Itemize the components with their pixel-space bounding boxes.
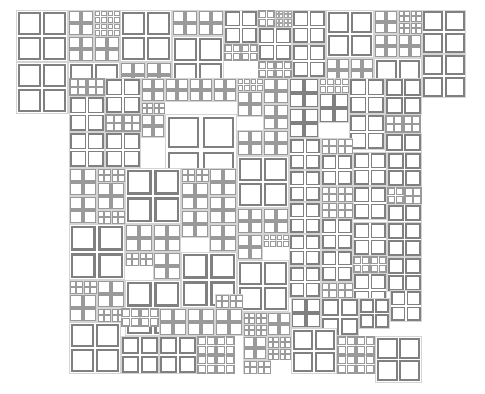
cross-cell xyxy=(267,336,278,347)
quadrant-bottom-left xyxy=(71,116,85,130)
cross-cell xyxy=(125,168,180,223)
cross-tiling-svg xyxy=(0,0,485,394)
quadrant-top-left xyxy=(291,268,304,281)
cross-cell xyxy=(385,78,421,114)
quadrant-top-right xyxy=(406,154,420,168)
cross-cell xyxy=(258,10,274,26)
quadrant-top-right xyxy=(202,310,213,321)
quadrant-top-left xyxy=(371,257,378,264)
quadrant-bottom-right xyxy=(119,176,124,181)
cross-cell xyxy=(197,355,215,373)
quadrant-top-left xyxy=(184,255,207,278)
quadrant-top-right xyxy=(196,184,207,195)
quadrant-bottom-right xyxy=(125,98,139,112)
quadrant-top-left xyxy=(389,154,403,168)
quadrant-top-left xyxy=(173,11,183,21)
quadrant-top-left xyxy=(244,337,254,347)
quadrant-bottom-right xyxy=(223,302,228,307)
quadrant-bottom-right xyxy=(310,62,324,76)
quadrant-top-left xyxy=(285,11,288,14)
quadrant-top-left xyxy=(112,211,117,216)
cross-cell xyxy=(216,336,234,354)
quadrant-top-right xyxy=(77,281,82,286)
quadrant-top-right xyxy=(276,29,290,43)
quadrant-top-right xyxy=(369,80,383,94)
quadrant-top-left xyxy=(291,172,304,185)
quadrant-bottom-left xyxy=(323,171,336,184)
quadrant-top-left xyxy=(387,80,402,95)
cross-cell xyxy=(97,308,110,321)
quadrant-top-right xyxy=(306,236,319,249)
cross-cell xyxy=(356,355,374,373)
cross-cell xyxy=(69,280,82,293)
quadrant-bottom-left xyxy=(107,98,121,112)
quadrant-bottom-right xyxy=(89,116,103,130)
quadrant-top-right xyxy=(346,139,352,145)
quadrant-top-left xyxy=(95,11,100,16)
quadrant-bottom-right xyxy=(284,70,291,77)
quadrant-top-right xyxy=(387,11,397,21)
quadrant-top-right xyxy=(405,23,409,27)
quadrant-top-left xyxy=(411,11,415,15)
quadrant-top-left xyxy=(355,188,369,202)
quadrant-top-right xyxy=(407,292,420,305)
quadrant-bottom-left xyxy=(217,346,225,354)
quadrant-top-right xyxy=(119,169,124,174)
quadrant-top-right xyxy=(82,37,92,47)
cross-cell xyxy=(105,78,140,113)
quadrant-top-right xyxy=(346,187,352,193)
cross-cell xyxy=(263,234,275,246)
quadrant-top-right xyxy=(396,188,403,195)
cross-cell xyxy=(370,256,386,272)
quadrant-bottom-left xyxy=(142,91,152,101)
quadrant-top-right xyxy=(82,11,92,21)
quadrant-top-right xyxy=(101,11,106,16)
cross-cell xyxy=(141,114,164,137)
quadrant-bottom-left xyxy=(259,19,266,26)
quadrant-top-right xyxy=(134,63,144,73)
cross-cell xyxy=(105,114,122,131)
quadrant-bottom-right xyxy=(379,265,386,272)
quadrant-top-right xyxy=(417,23,421,27)
cross-cell xyxy=(403,115,420,132)
quadrant-top-left xyxy=(338,203,344,209)
quadrant-bottom-left xyxy=(244,319,248,323)
quadrant-bottom-left xyxy=(399,17,403,21)
quadrant-top-right xyxy=(125,80,139,94)
quadrant-bottom-left xyxy=(424,34,442,52)
quadrant-top-right xyxy=(371,224,385,238)
quadrant-top-left xyxy=(351,80,365,94)
quadrant-top-left xyxy=(411,23,415,27)
cross-cell xyxy=(321,154,352,185)
quadrant-bottom-left xyxy=(211,239,222,250)
quadrant-top-left xyxy=(211,198,222,209)
quadrant-bottom-left xyxy=(244,349,254,359)
quadrant-bottom-right xyxy=(414,197,421,204)
quadrant-top-right xyxy=(363,59,373,69)
cross-cell xyxy=(276,234,288,246)
quadrant-bottom-right xyxy=(262,331,266,335)
quadrant-top-right xyxy=(257,79,262,84)
quadrant-bottom-left xyxy=(183,197,194,208)
quadrant-top-right xyxy=(262,313,266,317)
quadrant-top-left xyxy=(99,282,110,293)
quadrant-bottom-right xyxy=(101,17,106,22)
cross-cell xyxy=(97,210,110,223)
quadrant-top-right xyxy=(277,79,287,89)
cross-cell xyxy=(69,168,96,195)
cross-cell xyxy=(374,34,397,57)
cross-cell xyxy=(258,27,291,60)
quadrant-top-left xyxy=(355,154,369,168)
quadrant-top-right xyxy=(346,283,352,289)
cross-cell xyxy=(398,22,409,33)
quadrant-bottom-right xyxy=(133,124,140,131)
quadrant-bottom-right xyxy=(251,368,256,373)
quadrant-top-right xyxy=(306,268,319,281)
quadrant-top-left xyxy=(259,62,266,69)
quadrant-top-left xyxy=(388,188,395,195)
quadrant-bottom-left xyxy=(190,91,200,101)
quadrant-top-left xyxy=(175,39,196,60)
quadrant-bottom-right xyxy=(306,251,319,264)
quadrant-bottom-right xyxy=(306,219,319,232)
quadrant-bottom-left xyxy=(251,85,256,90)
